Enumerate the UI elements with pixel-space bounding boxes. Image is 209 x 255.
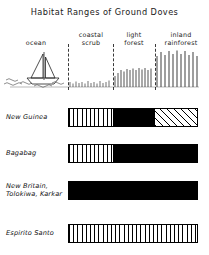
range-segment-vertical-hatch xyxy=(69,145,113,162)
species-label-espirito-santo: Espirito Santo xyxy=(6,229,54,237)
range-bar-bagabag[interactable] xyxy=(68,144,198,163)
range-segment-solid xyxy=(69,182,197,199)
species-label-new-britain-line2: Tolokiwa, Karkar xyxy=(6,190,62,198)
range-segment-diagonal-hatch xyxy=(155,109,197,126)
range-bar-new-britain[interactable] xyxy=(68,181,198,200)
range-bar-new-guinea[interactable] xyxy=(68,108,198,127)
species-label-new-guinea: New Guinea xyxy=(6,113,47,121)
species-label-new-britain-line1: New Britain, xyxy=(6,182,62,190)
habitat-illustration xyxy=(0,26,209,90)
page-title: Habitat Ranges of Ground Doves xyxy=(0,7,209,17)
light-forest-trees-icon xyxy=(115,68,151,87)
range-segment-vertical-hatch xyxy=(69,225,197,242)
range-segment-vertical-hatch xyxy=(69,109,113,126)
range-bar-espirito-santo[interactable] xyxy=(68,224,198,243)
range-segment-solid xyxy=(113,109,154,126)
range-segment-solid xyxy=(113,145,197,162)
scrub-vegetation-icon xyxy=(70,81,109,88)
species-label-bagabag: Bagabag xyxy=(6,149,36,157)
rainforest-trees-icon xyxy=(157,51,197,88)
sailboat-icon xyxy=(27,52,59,84)
